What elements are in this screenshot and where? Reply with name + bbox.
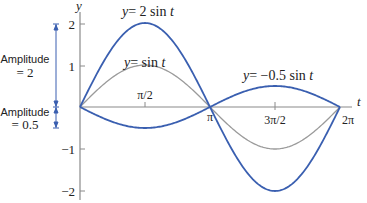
y-tick-2: 2 <box>69 17 76 32</box>
label-2-sin-t: y= 2 sin t <box>120 4 175 19</box>
axes: y t <box>74 0 361 200</box>
y-tick-labels: 2 1 −1 −2 <box>61 17 75 199</box>
x-tick-2pi: 2π <box>342 113 354 127</box>
y-tick-1: 1 <box>69 59 76 74</box>
amplitude-labels: Amplitude = 2 Amplitude = 0.5 <box>1 53 50 132</box>
amplitude-2-line2: = 2 <box>16 65 33 80</box>
amplitude-2-line1: Amplitude <box>1 53 50 65</box>
amplitude-half-line2: = 0.5 <box>12 117 39 132</box>
x-tick-3pi-half: 3π/2 <box>264 113 285 127</box>
y-tick-neg1: −1 <box>61 142 75 157</box>
sine-amplitude-chart: y t 2 1 −1 −2 π/2 π 3π/2 2π y= 2 sin t y… <box>0 0 367 203</box>
y-tick-neg2: −2 <box>61 184 75 199</box>
label-neg-half-sin-t: y= −0.5 sin t <box>241 68 314 83</box>
label-sin-t: y= sin t <box>122 55 166 70</box>
t-axis-label: t <box>357 94 361 109</box>
amplitude-arrows <box>53 24 59 128</box>
x-tick-pi-half: π/2 <box>137 88 152 102</box>
y-axis-label: y <box>74 0 82 13</box>
